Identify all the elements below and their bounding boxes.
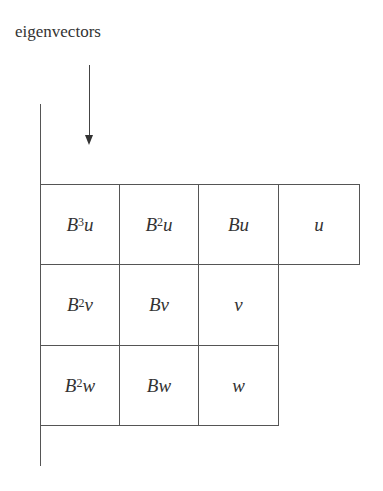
cell-base: B [149,294,161,316]
cell-u: u [278,184,360,265]
cell-vec: v [85,294,93,316]
cell-vec: w [82,375,95,397]
cell-exp: 2 [76,376,82,391]
cell-vec: u [84,214,94,236]
arrow-down-icon [85,135,93,145]
cell-vec: w [158,375,171,397]
cell-base: B [66,214,78,236]
cell-vec: u [314,214,324,236]
cell-vec: w [232,375,245,397]
cell-B3u: B3u [40,184,120,265]
cell-Bv: Bv [119,264,199,346]
cell-v: v [198,264,279,346]
cell-vec: v [234,294,242,316]
cell-B2v: B2v [40,264,120,346]
arrow-shaft [89,65,90,137]
cell-vec: u [163,214,173,236]
cell-base: B [65,375,77,397]
cell-base: B [147,375,159,397]
cell-vec: u [240,214,250,236]
cell-Bw: Bw [119,345,199,426]
cell-base: B [145,214,157,236]
cell-exp: 2 [157,215,163,230]
eigenvectors-label: eigenvectors [15,22,101,42]
cell-exp: 2 [79,296,85,311]
cell-base: B [67,294,79,316]
cell-base: B [228,214,240,236]
cell-Bu: Bu [198,184,279,265]
cell-vec: v [161,294,169,316]
cell-B2w: B2w [40,345,120,426]
cell-w: w [198,345,279,426]
cell-exp: 3 [78,215,84,230]
cell-B2u: B2u [119,184,199,265]
